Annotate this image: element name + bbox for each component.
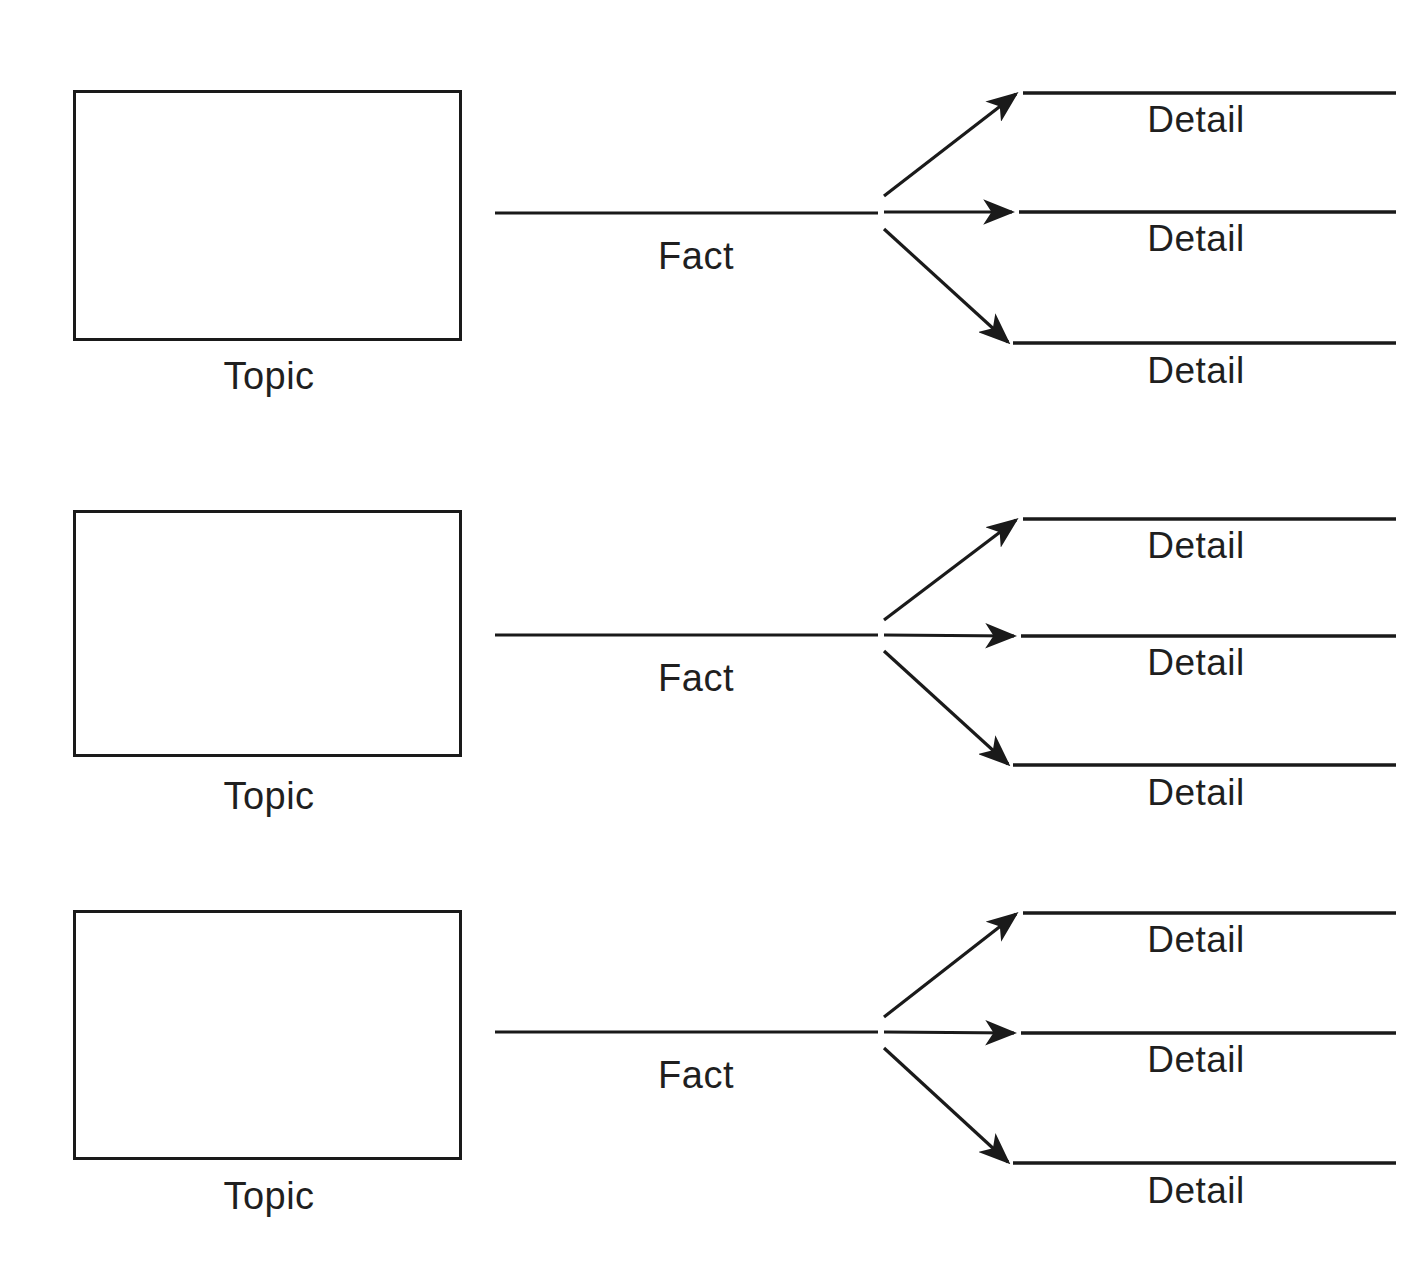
detail-label-2-3: Detail [1147, 774, 1245, 811]
detail-label-2-1: Detail [1147, 527, 1245, 564]
detail-label-2-2: Detail [1147, 644, 1245, 681]
detail-label-3-2: Detail [1147, 1041, 1245, 1078]
detail-arrow-3-2 [884, 1032, 1014, 1033]
detail-arrow-1-1 [884, 94, 1016, 196]
fact-label-2: Fact [658, 659, 734, 697]
detail-label-3-3: Detail [1147, 1172, 1245, 1209]
topic-label-1: Topic [223, 357, 314, 395]
detail-arrow-2-3 [884, 651, 1008, 764]
topic-label-2: Topic [223, 777, 314, 815]
detail-label-1-2: Detail [1147, 220, 1245, 257]
detail-arrow-1-3 [884, 229, 1008, 342]
detail-arrow-2-2 [884, 635, 1014, 636]
fact-label-1: Fact [658, 237, 734, 275]
topic-box-3[interactable] [73, 910, 462, 1160]
detail-label-1-3: Detail [1147, 352, 1245, 389]
detail-arrow-3-1 [884, 914, 1016, 1017]
topic-label-3: Topic [223, 1177, 314, 1215]
graphic-organizer-page: Topic Fact Detail Detail Detail Topic Fa… [0, 0, 1403, 1276]
detail-arrow-2-1 [884, 520, 1016, 620]
detail-arrow-3-3 [884, 1048, 1008, 1162]
detail-label-1-1: Detail [1147, 101, 1245, 138]
connector-lines [495, 93, 1396, 1163]
topic-box-2[interactable] [73, 510, 462, 757]
fact-label-3: Fact [658, 1056, 734, 1094]
topic-box-1[interactable] [73, 90, 462, 341]
detail-label-3-1: Detail [1147, 921, 1245, 958]
